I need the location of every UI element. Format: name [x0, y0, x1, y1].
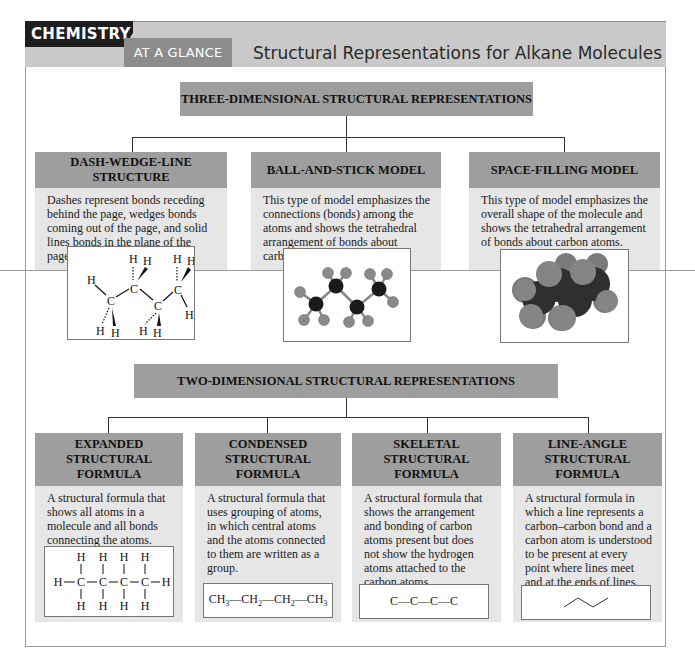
connector-line	[108, 417, 109, 433]
svg-text:H: H	[120, 550, 129, 564]
page-title: Structural Representations for Alkane Mo…	[253, 40, 662, 66]
card-description: A structural formula that uses grouping …	[195, 486, 341, 575]
svg-text:H: H	[96, 324, 105, 338]
svg-text:H: H	[173, 252, 182, 266]
svg-text:H: H	[111, 326, 120, 339]
line-angle-figure	[521, 585, 651, 620]
card-title: CONDENSED STRUCTURAL FORMULA	[195, 433, 341, 486]
expanded-formula-butane-icon: HHHH H CCCC H HHHH	[45, 547, 173, 616]
svg-text:C: C	[141, 575, 149, 589]
dash-wedge-butane-icon: H C C H H C C H H H H H H H	[68, 247, 194, 339]
condensed-formula-figure: CH3—CH2—CH2—CH3	[203, 583, 333, 618]
connector-line	[108, 417, 589, 418]
formula-text: CH3—CH2—CH2—CH3	[209, 592, 328, 608]
chemistry-badge: CHEMISTRY	[25, 21, 133, 47]
connector-line	[588, 417, 589, 433]
connector-line	[564, 137, 565, 153]
svg-text:H: H	[129, 252, 138, 266]
expanded-formula-figure: HHHH H CCCC H HHHH	[44, 546, 174, 617]
card-description: A structural formula that shows the arra…	[352, 486, 501, 589]
svg-text:C: C	[77, 575, 85, 589]
svg-text:H: H	[143, 254, 152, 268]
card-title: SKELETAL STRUCTURAL FORMULA	[352, 433, 501, 486]
connector-line	[346, 116, 347, 138]
card-description: This type of model emphasizes the overal…	[469, 188, 660, 249]
dash-wedge-figure: H C C H H C C H H H H H H H	[67, 246, 195, 340]
svg-text:C: C	[99, 575, 107, 589]
skeletal-formula-figure: C—C—C—C	[359, 584, 489, 619]
svg-text:H: H	[139, 324, 148, 338]
card-title: DASH-WEDGE-LINE STRUCTURE	[35, 152, 227, 188]
card-title: BALL-AND-STICK MODEL	[251, 152, 441, 188]
space-filling-butane-icon	[501, 250, 628, 342]
connector-line	[427, 417, 428, 433]
section-title-3d: THREE-DIMENSIONAL STRUCTURAL REPRESENTAT…	[180, 82, 533, 116]
svg-text:C: C	[174, 283, 182, 297]
ball-and-stick-butane-icon	[284, 249, 410, 341]
formula-text: C—C—C—C	[390, 594, 458, 609]
connector-line	[132, 137, 133, 153]
zigzag-line-icon	[522, 586, 650, 619]
svg-text:H: H	[141, 550, 150, 564]
at-a-glance-badge: AT A GLANCE	[124, 38, 232, 67]
svg-text:C: C	[120, 575, 128, 589]
space-filling-figure	[500, 249, 629, 343]
svg-text:H: H	[185, 308, 194, 322]
svg-text:H: H	[54, 575, 63, 589]
svg-text:H: H	[187, 254, 194, 268]
svg-text:H: H	[141, 599, 150, 613]
svg-text:H: H	[87, 273, 96, 287]
svg-text:H: H	[120, 599, 129, 613]
svg-text:H: H	[153, 326, 162, 339]
svg-text:C: C	[154, 299, 162, 313]
svg-text:H: H	[99, 599, 108, 613]
connector-line	[346, 398, 347, 417]
card-title: SPACE-FILLING MODEL	[469, 152, 660, 188]
connector-line	[132, 137, 564, 138]
card-description: A structural formula that shows all atom…	[35, 486, 183, 547]
svg-text:C: C	[130, 282, 138, 296]
card-title: LINE-ANGLE STRUCTURAL FORMULA	[513, 433, 662, 486]
svg-text:H: H	[77, 599, 86, 613]
card-description: A structural formula in which a line rep…	[513, 486, 662, 589]
section-title-2d: TWO-DIMENSIONAL STRUCTURAL REPRESENTATIO…	[134, 364, 558, 398]
svg-text:H: H	[77, 550, 86, 564]
svg-text:H: H	[162, 575, 171, 589]
connector-line	[346, 137, 347, 153]
ball-and-stick-figure	[283, 248, 411, 342]
connector-line	[267, 417, 268, 433]
svg-text:C: C	[107, 294, 115, 308]
card-title: EXPANDED STRUCTURAL FORMULA	[35, 433, 183, 486]
svg-text:H: H	[99, 550, 108, 564]
